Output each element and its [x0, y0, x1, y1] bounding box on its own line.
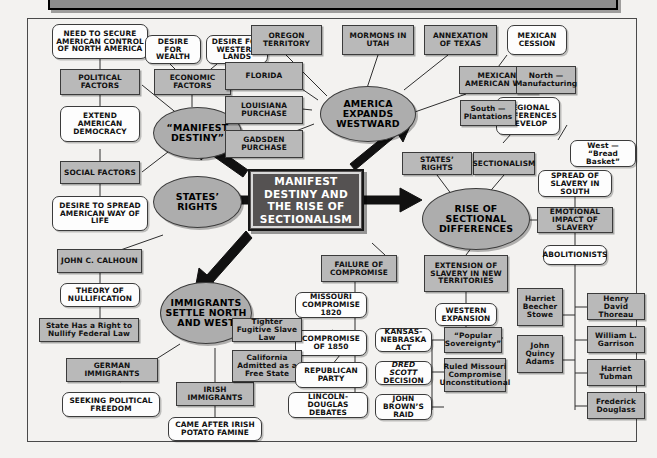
western-expansion[interactable]: WESTERN EXPANSION: [435, 303, 497, 326]
republican-party[interactable]: REPUBLICAN PARTY: [295, 362, 367, 388]
desire-to-spread-way-of-life[interactable]: DESIRE TO SPREAD AMERICAN WAY OF LIFE: [52, 196, 148, 231]
political-factors-label: POLITICAL FACTORS: [61, 73, 139, 91]
ruled-missouri-unconstitutional[interactable]: Ruled Missouri Compromise Unconstitution…: [444, 358, 506, 392]
seeking-political-freedom-label: SEEKING POLITICAL FREEDOM: [63, 396, 159, 414]
south-plantations[interactable]: South — Plantations: [460, 100, 516, 126]
abolitionist-william-l-garrison-label: William L. Garrison: [588, 331, 644, 349]
theory-of-nullification[interactable]: THEORY OF NULLIFICATION: [60, 283, 140, 307]
ruled-missouri-unconstitutional-label: Ruled Missouri Compromise Unconstitution…: [438, 362, 513, 388]
irish-immigrants-label: IRISH IMMIGRANTS: [177, 385, 253, 403]
popular-sovereignty[interactable]: “Popular Sovereignty”: [444, 327, 502, 353]
popular-sovereignty-label: “Popular Sovereignty”: [443, 331, 503, 349]
gadsden-purchase[interactable]: GADSDEN PURCHASE: [225, 130, 303, 158]
mormons-in-utah[interactable]: MORMONS IN UTAH: [342, 25, 414, 55]
came-after-potato-famine[interactable]: CAME AFTER IRISH POTATO FAMINE: [168, 417, 262, 441]
abolitionist-henry-david-thoreau[interactable]: Henry David Thoreau: [587, 293, 645, 320]
missouri-compromise-1820-label: MISSOURI COMPROMISE 1820: [296, 292, 366, 318]
north-manufacturing-label: North — Manufacturing: [513, 71, 579, 89]
abolitionist-william-l-garrison[interactable]: William L. Garrison: [587, 326, 645, 353]
florida-label: FLORIDA: [244, 71, 285, 81]
california-free-state-label: California Admitted as a Free State: [233, 353, 301, 379]
irish-immigrants[interactable]: IRISH IMMIGRANTS: [176, 382, 254, 406]
lincoln-douglas-debates-label: LINCOLN-DOUGLAS DEBATES: [289, 392, 367, 418]
center-topic[interactable]: MANIFEST DESTINY AND THE RISE OF SECTION…: [248, 169, 364, 231]
abolitionist-harriet-tubman[interactable]: Harriet Tubman: [587, 359, 645, 386]
mexican-cession[interactable]: MEXICAN CESSION: [507, 25, 567, 55]
dred-scott-decision[interactable]: DRED SCOTTDECISION: [375, 361, 432, 385]
kansas-nebraska-act-label: KANSAS-NEBRASKA ACT: [376, 327, 431, 353]
missouri-compromise-1820[interactable]: MISSOURI COMPROMISE 1820: [295, 292, 367, 318]
john-c-calhoun-label: JOHN C. CALHOUN: [59, 256, 140, 266]
sectionalism-label: SECTIONALISM: [470, 159, 537, 169]
abolitionist-harriet-beecher-stowe[interactable]: Harriet Beecher Stowe: [517, 288, 563, 326]
lincoln-douglas-debates[interactable]: LINCOLN-DOUGLAS DEBATES: [288, 392, 368, 418]
west-bread-basket[interactable]: West — “Bread Basket”: [570, 140, 636, 167]
hub-rise-sectional-differences-label: RISE OF SECTIONAL DIFFERENCES: [423, 203, 529, 235]
state-right-nullify-label: State Has a Right to Nullify Federal Law: [40, 321, 138, 339]
western-expansion-label: WESTERN EXPANSION: [436, 306, 496, 324]
hub-rise-sectional-differences[interactable]: RISE OF SECTIONAL DIFFERENCES: [422, 188, 530, 250]
tighter-fugitive-slave-law[interactable]: Tighter Fugitive Slave Law: [232, 318, 302, 342]
need-to-secure-control[interactable]: NEED TO SECURE AMERICAN CONTROL OF NORTH…: [52, 24, 148, 59]
gadsden-purchase-label: GADSDEN PURCHASE: [226, 135, 302, 153]
seeking-political-freedom[interactable]: SEEKING POLITICAL FREEDOM: [62, 392, 160, 417]
desire-for-wealth-label: DESIRE FOR WEALTH: [146, 37, 200, 63]
abolitionist-john-quincy-adams-label: John Quincy Adams: [518, 341, 562, 367]
concept-map-page: MANIFEST DESTINY AND SECTIONALISM: [0, 0, 657, 458]
state-right-nullify[interactable]: State Has a Right to Nullify Federal Law: [39, 318, 139, 342]
south-plantations-label: South — Plantations: [461, 104, 515, 122]
german-immigrants[interactable]: GERMAN IMMIGRANTS: [66, 358, 158, 382]
center-topic-label: MANIFEST DESTINY AND THE RISE OF SECTION…: [250, 174, 362, 226]
florida[interactable]: FLORIDA: [225, 62, 303, 90]
hub-america-expands-label: AMERICA EXPANDS WESTWARD: [321, 98, 415, 130]
social-factors-label: SOCIAL FACTORS: [62, 168, 138, 178]
social-factors[interactable]: SOCIAL FACTORS: [60, 161, 140, 184]
failure-of-compromise[interactable]: FAILURE OF COMPROMISE: [321, 255, 397, 282]
abolitionist-frederick-douglass[interactable]: Frederick Douglass: [587, 392, 645, 419]
emotional-impact-of-slavery-label: EMOTIONAL IMPACT OF SLAVERY: [538, 207, 612, 233]
spread-of-slavery-in-south[interactable]: SPREAD OF SLAVERY IN SOUTH: [538, 170, 612, 197]
kansas-nebraska-act[interactable]: KANSAS-NEBRASKA ACT: [375, 328, 432, 352]
annexation-of-texas-label: ANNEXATION OF TEXAS: [425, 31, 496, 49]
abolitionist-frederick-douglass-label: Frederick Douglass: [588, 397, 644, 415]
abolitionists[interactable]: ABOLITIONISTS: [543, 245, 607, 265]
republican-party-label: REPUBLICAN PARTY: [296, 366, 366, 384]
states-rights-box[interactable]: STATES’ RIGHTS: [402, 152, 472, 175]
west-bread-basket-label: West — “Bread Basket”: [571, 141, 635, 167]
dred-scott-italic: DRED SCOTT: [390, 360, 418, 377]
extend-american-democracy[interactable]: EXTEND AMERICAN DEMOCRACY: [60, 106, 140, 142]
spread-of-slavery-in-south-label: SPREAD OF SLAVERY IN SOUTH: [539, 171, 611, 197]
john-c-calhoun[interactable]: JOHN C. CALHOUN: [57, 249, 142, 273]
desire-for-wealth[interactable]: DESIRE FOR WEALTH: [145, 35, 201, 64]
dred-scott-decision-label: DRED SCOTTDECISION: [376, 360, 431, 386]
sectionalism[interactable]: SECTIONALISM: [473, 152, 535, 175]
mormons-in-utah-label: MORMONS IN UTAH: [343, 31, 413, 49]
louisiana-purchase[interactable]: LOUISIANA PURCHASE: [225, 96, 303, 124]
hub-states-rights[interactable]: STATES’ RIGHTS: [153, 176, 242, 228]
north-manufacturing[interactable]: North — Manufacturing: [516, 66, 576, 94]
john-browns-raid[interactable]: JOHN BROWN’S RAID: [375, 394, 432, 420]
states-rights-box-label: STATES’ RIGHTS: [403, 155, 471, 173]
extension-of-slavery-new-territories-label: EXTENSION OF SLAVERY IN NEW TERRITORIES: [425, 261, 507, 287]
theory-of-nullification-label: THEORY OF NULLIFICATION: [61, 286, 139, 304]
abolitionist-henry-david-thoreau-label: Henry David Thoreau: [588, 294, 644, 320]
economic-factors[interactable]: ECONOMIC FACTORS: [154, 69, 231, 95]
extension-of-slavery-new-territories[interactable]: EXTENSION OF SLAVERY IN NEW TERRITORIES: [424, 255, 508, 292]
came-after-potato-famine-label: CAME AFTER IRISH POTATO FAMINE: [169, 420, 261, 438]
oregon-territory-label: OREGON TERRITORY: [252, 31, 321, 49]
hub-america-expands[interactable]: AMERICA EXPANDS WESTWARD: [320, 86, 416, 142]
mexican-cession-label: MEXICAN CESSION: [508, 31, 566, 49]
john-browns-raid-label: JOHN BROWN’S RAID: [376, 394, 431, 420]
abolitionist-harriet-beecher-stowe-label: Harriet Beecher Stowe: [518, 294, 562, 320]
political-factors[interactable]: POLITICAL FACTORS: [60, 69, 140, 95]
louisiana-purchase-label: LOUISIANA PURCHASE: [226, 101, 302, 119]
oregon-territory[interactable]: OREGON TERRITORY: [251, 25, 322, 55]
need-to-secure-control-label: NEED TO SECURE AMERICAN CONTROL OF NORTH…: [53, 29, 147, 55]
emotional-impact-of-slavery[interactable]: EMOTIONAL IMPACT OF SLAVERY: [537, 207, 613, 233]
tighter-fugitive-slave-law-label: Tighter Fugitive Slave Law: [233, 317, 301, 343]
abolitionist-john-quincy-adams[interactable]: John Quincy Adams: [517, 335, 563, 373]
annexation-of-texas[interactable]: ANNEXATION OF TEXAS: [424, 25, 497, 55]
compromise-of-1850[interactable]: COMPROMISE OF 1850: [295, 330, 367, 356]
failure-of-compromise-label: FAILURE OF COMPROMISE: [322, 260, 396, 278]
california-free-state[interactable]: California Admitted as a Free State: [232, 350, 302, 382]
